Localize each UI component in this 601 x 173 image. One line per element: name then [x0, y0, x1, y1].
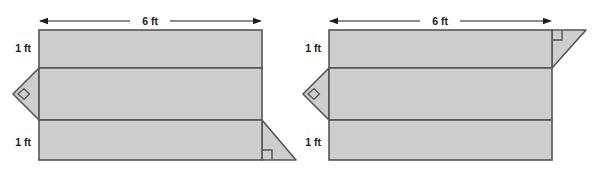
right-top-dimension-label: 6 ft	[432, 15, 448, 27]
geometry-diagram: 6 ft 1 ft 1 ft 6 ft	[0, 0, 601, 173]
right-fig-lower-band-rect	[329, 120, 552, 160]
bottom-right-triangle-flap	[262, 120, 296, 160]
right-fig-lower-band-label: 1 ft	[305, 136, 321, 148]
left-lower-band-label: 1 ft	[15, 136, 31, 148]
right-fig-middle-band-rect	[329, 68, 552, 120]
left-top-dimension-label: 6 ft	[142, 15, 158, 27]
lower-band-rect	[39, 120, 262, 160]
diagram-canvas: 6 ft 1 ft 1 ft 6 ft	[0, 0, 601, 173]
middle-band-rect	[39, 68, 262, 120]
right-fig-upper-band-rect	[329, 30, 552, 68]
right-net-group: 6 ft 1 ft 1 ft	[303, 15, 586, 160]
right-fig-left-triangle-flap	[303, 68, 329, 120]
upper-band-rect	[39, 30, 262, 68]
right-fig-upper-band-label: 1 ft	[305, 42, 321, 54]
left-net-group: 6 ft 1 ft 1 ft	[13, 15, 296, 160]
left-upper-band-label: 1 ft	[15, 42, 31, 54]
left-triangle-flap	[13, 68, 39, 120]
top-right-triangle-flap	[552, 30, 586, 68]
